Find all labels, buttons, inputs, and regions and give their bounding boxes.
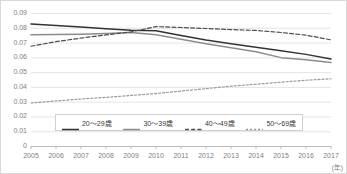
y-axis-tick-label: 0.05 [1, 68, 27, 75]
data-series-group [31, 24, 331, 103]
legend-item-label: 30〜39歳 [143, 118, 173, 128]
x-axis-tick-label: 2016 [293, 152, 319, 159]
legend-item-label: 50〜69歳 [266, 118, 296, 128]
y-axis-tick-label: 0.02 [1, 112, 27, 119]
y-axis-tick-label: 0.06 [1, 53, 27, 60]
data-series-line [31, 24, 331, 59]
legend-item[interactable]: 30〜39歳 [123, 118, 173, 128]
y-axis-tick-label: 0.01 [1, 127, 27, 134]
x-axis-tick-label: 2009 [118, 152, 144, 159]
x-axis-tick-label: 2017 [318, 152, 344, 159]
y-axis-tick-label: 0.04 [1, 83, 27, 90]
x-axis-tick-label: 2008 [93, 152, 119, 159]
x-axis-tick-label: 2007 [68, 152, 94, 159]
chart-legend: 20〜29歳30〜39歳40〜49歳50〜69歳 [55, 114, 303, 131]
y-axis-tick-label: 0 [1, 142, 27, 149]
x-axis-tick-label: 2014 [243, 152, 269, 159]
x-axis-tick-label: 2006 [43, 152, 69, 159]
legend-line-swatch [185, 119, 202, 126]
legend-line-swatch [123, 119, 140, 126]
legend-item[interactable]: 40〜49歳 [185, 118, 235, 128]
y-axis-tick-label: 0.07 [1, 39, 27, 46]
x-axis-tick-label: 2012 [193, 152, 219, 159]
x-axis-tick-label: 2010 [143, 152, 169, 159]
legend-line-swatch [62, 119, 79, 126]
x-axis-tick-label: 2005 [18, 152, 44, 159]
x-axis-unit-label: (年) [332, 162, 343, 172]
legend-item[interactable]: 50〜69歳 [246, 118, 296, 128]
legend-item-label: 40〜49歳 [205, 118, 235, 128]
y-axis-tick-label: 0.08 [1, 24, 27, 31]
y-axis-tick-label: 0.09 [1, 9, 27, 16]
x-axis-tick-label: 2015 [268, 152, 294, 159]
legend-line-swatch [246, 119, 263, 126]
chart-plot-area [1, 1, 347, 174]
legend-item[interactable]: 20〜29歳 [62, 118, 112, 128]
legend-item-label: 20〜29歳 [82, 118, 112, 128]
line-chart-figure: 0.090.080.070.060.050.040.030.020.010 20… [0, 0, 347, 174]
x-axis-tick-label: 2011 [168, 152, 194, 159]
x-axis-tick-label: 2013 [218, 152, 244, 159]
data-series-line [31, 79, 331, 103]
y-axis-tick-label: 0.03 [1, 98, 27, 105]
